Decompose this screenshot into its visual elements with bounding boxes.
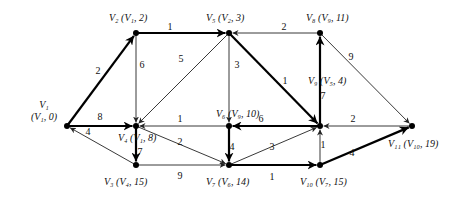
edge-weight: 9 (178, 170, 183, 181)
edge-weight: 4 (350, 147, 355, 158)
edge-weight: 1 (321, 139, 326, 150)
node-v3-label: V₃ (V₄, 15) (104, 176, 148, 188)
node-v8-label: V₈ (V₉, 11) (306, 12, 349, 24)
node-v6-dot (226, 123, 232, 129)
diagram-svg: 2841651723216493179214 V₁(V₁, 0)V₂ (V₁, … (0, 0, 469, 199)
node-v8-dot (317, 30, 323, 36)
edge-weight: 2 (282, 21, 287, 32)
edge-weight: 7 (138, 146, 143, 157)
edge-weight: 1 (178, 113, 183, 124)
edge-weight: 9 (349, 51, 354, 62)
edge-weight: 3 (235, 59, 240, 70)
node-v7-dot (226, 162, 232, 168)
edge-weight: 2 (351, 113, 356, 124)
edge-weight: 4 (230, 141, 235, 152)
edge-weight: 1 (168, 21, 173, 32)
edge-weight: 2 (178, 136, 183, 147)
edge-weight: 1 (283, 75, 288, 86)
node-v1-dot (64, 123, 70, 129)
node-v1-tag: (V₁, 0) (31, 111, 58, 123)
node-v7-label: V₇ (V₆, 14) (206, 176, 250, 188)
node-v9-label: V₉ (V₅, 4) (308, 75, 347, 87)
edge-weight: 5 (179, 53, 184, 64)
node-v2-label: V₂ (V₁, 2) (109, 12, 148, 24)
node-v11-label: V₁₁ (V₁₀, 19) (388, 138, 439, 150)
edge-weight: 4 (86, 126, 91, 137)
node-v10-dot (317, 162, 323, 168)
node-v5-label: V₅ (V₂, 3) (206, 12, 245, 24)
edges-layer (67, 33, 412, 165)
node-v2-dot (133, 30, 139, 36)
network-diagram: 2841651723216493179214 V₁(V₁, 0)V₂ (V₁, … (0, 0, 469, 199)
node-v3-dot (133, 162, 139, 168)
node-v4-label: V₄ (V₁, 8) (118, 132, 157, 144)
edge-weight: 3 (270, 141, 275, 152)
node-v1-name: V₁ (39, 99, 49, 110)
node-v6-label: V₆ (V₉, 10) (216, 108, 260, 120)
node-v10-label: V₁₀ (V₇, 15) (300, 176, 347, 188)
edge-weight: 8 (98, 111, 103, 122)
edge-weight: 1 (270, 171, 275, 182)
node-v9-dot (317, 123, 323, 129)
node-v4-dot (133, 123, 139, 129)
node-v11-dot (409, 123, 415, 129)
edge-weight: 2 (96, 65, 101, 76)
edge-weight: 7 (321, 90, 326, 101)
node-v5-dot (226, 30, 232, 36)
edge-weight: 6 (140, 59, 145, 70)
